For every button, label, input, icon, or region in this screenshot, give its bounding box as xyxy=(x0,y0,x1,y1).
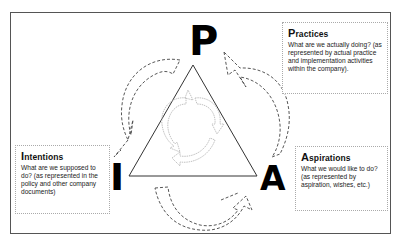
aspirations-box: Aspirations What we would like to do? (a… xyxy=(295,146,388,211)
aspirations-title-rest: spirations xyxy=(309,153,351,163)
practices-title-rest: ractices xyxy=(295,29,328,39)
aspirations-title-cap: A xyxy=(301,151,309,163)
intentions-title-rest: ntentions xyxy=(24,152,63,162)
practices-text: What are we actually doing? (as represen… xyxy=(288,41,382,73)
practices-box: Practices What are we actually doing? (a… xyxy=(282,22,388,94)
aspirations-title: Aspirations xyxy=(301,151,382,163)
letter-a: A xyxy=(260,162,286,195)
letter-i: I xyxy=(110,158,124,196)
intentions-title: Intentions xyxy=(21,150,104,162)
letter-p: P xyxy=(189,21,218,61)
triangle xyxy=(129,65,257,176)
practices-title: Practices xyxy=(288,27,382,39)
arrow-i-to-a-icon xyxy=(155,187,252,230)
inner-cycle-icon xyxy=(162,90,224,166)
aspirations-text: What we would like to do? (as represente… xyxy=(301,165,382,189)
intentions-text: What are we supposed to do? (as represen… xyxy=(21,164,104,196)
arrow-a-to-p-icon xyxy=(224,52,289,157)
intentions-box: Intentions What are we supposed to do? (… xyxy=(15,145,110,214)
arrow-p-to-i-icon xyxy=(114,59,180,157)
